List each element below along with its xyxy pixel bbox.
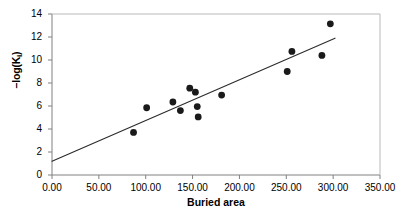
- data-point: [218, 92, 225, 99]
- data-point: [318, 52, 325, 59]
- data-point: [195, 114, 202, 121]
- data-points: [130, 20, 334, 135]
- scatter-chart: –log(Ki) Buried area 02468101214 0.0050.…: [0, 0, 403, 218]
- data-point: [289, 48, 296, 55]
- axis-ticks: [48, 14, 380, 179]
- data-point: [130, 129, 137, 136]
- data-point: [284, 68, 291, 75]
- data-point: [192, 89, 199, 96]
- trendline: [52, 38, 335, 161]
- data-point: [327, 20, 334, 27]
- data-point: [186, 85, 193, 92]
- data-point: [194, 103, 201, 110]
- data-point: [169, 99, 176, 106]
- data-point: [177, 107, 184, 114]
- data-point: [143, 104, 150, 111]
- plot-frame: [52, 14, 380, 175]
- plot-area: [0, 0, 403, 218]
